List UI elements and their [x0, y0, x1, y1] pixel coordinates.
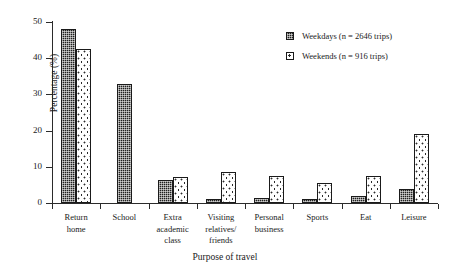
y-axis-tick-label: 0 [38, 196, 43, 209]
x-axis-title: Purpose of travel [0, 252, 450, 262]
bar-group-bars [100, 22, 148, 203]
bar-weekend [269, 176, 284, 204]
bar-group [100, 22, 148, 203]
bar-group [197, 22, 245, 203]
legend-label: Weekends (n = 916 trips) [302, 51, 388, 61]
legend-label: Weekdays (n = 2646 trips) [302, 31, 392, 41]
bar-group-bars [197, 22, 245, 203]
legend-item: Weekdays (n = 2646 trips) [286, 26, 392, 46]
x-axis-tick [52, 204, 53, 209]
bar-weekday [351, 196, 366, 203]
x-axis-category-label: Leisure [385, 212, 443, 224]
y-axis-tick-label: 10 [33, 160, 42, 173]
x-axis-tick [438, 204, 439, 209]
bar-weekday [254, 198, 269, 203]
y-axis-tick-label: 20 [33, 124, 42, 137]
x-axis-tick [149, 204, 150, 209]
x-axis-tick [197, 204, 198, 209]
bar-group [149, 22, 197, 203]
x-axis-tick [293, 204, 294, 209]
x-axis-tick [390, 204, 391, 209]
y-axis-tick-label: 40 [33, 51, 42, 64]
bar-weekend [173, 177, 188, 203]
bar-group-bars [149, 22, 197, 203]
bar-weekend [221, 172, 236, 203]
y-axis-tick-label: 50 [33, 15, 42, 28]
bar-weekday [206, 199, 221, 203]
bar-weekday [158, 180, 173, 203]
bar-group [390, 22, 438, 203]
bar-group-bars [52, 22, 100, 203]
x-axis-tick [342, 204, 343, 209]
bar-weekday [61, 29, 76, 203]
legend-item: Weekends (n = 916 trips) [286, 46, 392, 66]
bar-chart: 01020304050 Percentage (%) Purpose of tr… [0, 0, 450, 278]
bar-group-bars [390, 22, 438, 203]
x-axis-tick [245, 204, 246, 209]
bar-weekend [317, 183, 332, 203]
chart-legend: Weekdays (n = 2646 trips)Weekends (n = 9… [286, 26, 392, 66]
bar-weekday [117, 84, 132, 203]
bar-weekday [302, 199, 317, 203]
bar-weekend [414, 134, 429, 203]
bar-weekend [76, 49, 91, 203]
legend-swatch-weekday [286, 32, 294, 40]
x-axis-tick [100, 204, 101, 209]
y-axis-tick-label: 30 [33, 87, 42, 100]
bar-weekday [399, 189, 414, 203]
bar-group [52, 22, 100, 203]
legend-swatch-weekend [286, 52, 294, 60]
bar-weekend [366, 176, 381, 203]
